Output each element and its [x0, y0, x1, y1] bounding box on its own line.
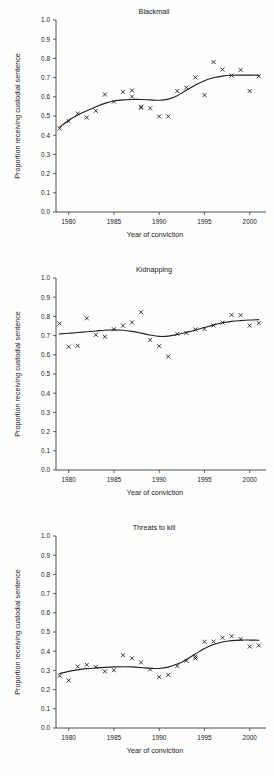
y-tick-label: 0.4	[41, 132, 50, 139]
data-point-marker	[148, 106, 152, 110]
y-tick-label: 0.6	[41, 351, 50, 358]
data-point-marker	[130, 95, 134, 99]
data-point-marker	[103, 92, 107, 96]
data-point-marker	[85, 316, 89, 320]
y-tick-label: 0.2	[41, 686, 50, 693]
data-point-marker	[221, 68, 225, 72]
y-tick-label: 0.3	[41, 667, 50, 674]
y-tick-label: 0.4	[41, 390, 50, 397]
x-tick-label: 1980	[62, 218, 77, 225]
chart-panel-blackmail: Blackmail0.00.10.20.30.40.50.60.70.80.91…	[0, 0, 274, 258]
x-tick-label: 1985	[107, 476, 122, 483]
data-point-marker	[239, 313, 243, 317]
data-point-marker	[248, 324, 252, 328]
x-tick-label: 2000	[243, 734, 258, 741]
y-tick-label: 0.9	[41, 36, 50, 43]
data-point-marker	[202, 93, 206, 97]
y-tick-label: 0.8	[41, 55, 50, 62]
x-axis-title: Year of conviction	[127, 488, 183, 497]
y-tick-label: 0.8	[41, 571, 50, 578]
y-tick-label: 0.7	[41, 590, 50, 597]
y-tick-label: 0.0	[41, 724, 50, 731]
data-point-group	[58, 310, 261, 358]
data-point-marker	[85, 663, 89, 667]
data-point-group	[58, 60, 261, 130]
x-tick-label: 1985	[107, 734, 122, 741]
data-point-marker	[94, 333, 98, 337]
y-tick-label: 0.1	[41, 447, 50, 454]
data-point-marker	[212, 640, 216, 644]
data-point-marker	[130, 656, 134, 660]
data-point-marker	[130, 88, 134, 92]
data-point-marker	[212, 60, 216, 64]
chart-svg: Kidnapping0.00.10.20.30.40.50.60.70.80.9…	[0, 258, 274, 516]
x-tick-label: 1990	[152, 218, 167, 225]
x-tick-label: 1990	[152, 476, 167, 483]
data-point-marker	[58, 322, 62, 326]
data-point-marker	[112, 327, 116, 331]
data-point-marker	[139, 660, 143, 664]
y-tick-label: 0.9	[41, 552, 50, 559]
data-point-marker	[94, 109, 98, 113]
data-point-marker	[121, 324, 125, 328]
y-tick-label: 0.5	[41, 370, 50, 377]
y-tick-label: 0.9	[41, 294, 50, 301]
trend-fit-line	[60, 320, 259, 337]
data-point-marker	[257, 643, 261, 647]
y-tick-label: 0.8	[41, 313, 50, 320]
y-tick-label: 0.1	[41, 705, 50, 712]
chart-svg: Blackmail0.00.10.20.30.40.50.60.70.80.91…	[0, 0, 274, 258]
data-point-marker	[230, 313, 234, 317]
x-tick-label: 1985	[107, 218, 122, 225]
x-axis-title: Year of conviction	[127, 746, 183, 755]
data-point-marker	[166, 355, 170, 359]
y-tick-label: 0.2	[41, 170, 50, 177]
y-tick-label: 1.0	[41, 532, 50, 539]
data-point-marker	[139, 310, 143, 314]
chart-title: Kidnapping	[136, 265, 172, 274]
data-point-marker	[58, 674, 62, 678]
y-tick-label: 0.3	[41, 409, 50, 416]
data-point-marker	[76, 665, 80, 669]
x-tick-label: 1995	[197, 218, 212, 225]
data-point-marker	[166, 673, 170, 677]
y-tick-label: 0.5	[41, 628, 50, 635]
y-tick-label: 0.0	[41, 208, 50, 215]
data-point-marker	[67, 678, 71, 682]
chart-title: Threats to kill	[133, 523, 176, 532]
y-tick-label: 0.6	[41, 609, 50, 616]
y-tick-label: 0.3	[41, 151, 50, 158]
data-point-marker	[157, 344, 161, 348]
x-tick-label: 2000	[243, 476, 258, 483]
data-point-marker	[103, 669, 107, 673]
x-tick-label: 2000	[243, 218, 258, 225]
y-axis-title: Proportion receiving custodial sentence	[13, 569, 22, 694]
data-point-marker	[175, 89, 179, 93]
x-tick-label: 1995	[197, 734, 212, 741]
data-point-marker	[67, 345, 71, 349]
data-point-marker	[230, 634, 234, 638]
data-point-marker	[85, 116, 89, 120]
data-point-marker	[148, 338, 152, 342]
x-tick-label: 1995	[197, 476, 212, 483]
y-tick-label: 0.5	[41, 112, 50, 119]
x-tick-label: 1980	[62, 476, 77, 483]
figure-page: Blackmail0.00.10.20.30.40.50.60.70.80.91…	[0, 0, 274, 776]
data-point-marker	[239, 68, 243, 72]
data-point-marker	[112, 668, 116, 672]
y-tick-label: 0.2	[41, 428, 50, 435]
x-tick-label: 1990	[152, 734, 167, 741]
data-point-marker	[157, 114, 161, 118]
trend-fit-line	[60, 75, 259, 127]
data-point-marker	[121, 653, 125, 657]
data-point-marker	[202, 640, 206, 644]
y-axis-title: Proportion receiving custodial sentence	[13, 53, 22, 178]
data-point-marker	[121, 90, 125, 94]
y-tick-label: 0.7	[41, 74, 50, 81]
data-point-marker	[257, 321, 261, 325]
data-point-marker	[193, 75, 197, 79]
x-tick-label: 1980	[62, 734, 77, 741]
data-point-marker	[103, 335, 107, 339]
y-tick-label: 1.0	[41, 16, 50, 23]
data-point-group	[58, 634, 261, 682]
